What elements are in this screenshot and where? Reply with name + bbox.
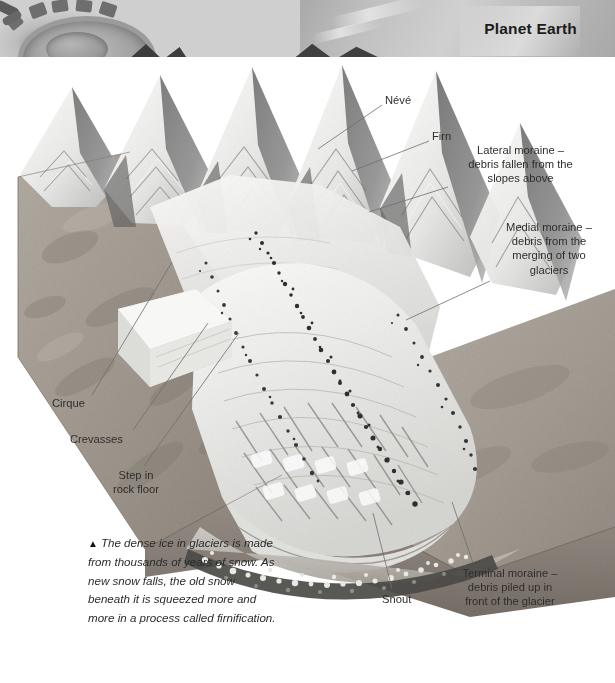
figure-caption: ▲The dense ice in glaciers is made from … (88, 534, 278, 627)
label-firn: Firn (432, 129, 451, 143)
label-step-in-rock-floor: Step in rock floor (95, 468, 177, 496)
header-photo-band: Planet Earth (0, 0, 615, 57)
label-snout: Snout (382, 592, 411, 606)
caption-text: The dense ice in glaciers is made from t… (88, 536, 276, 624)
label-terminal-moraine: Terminal moraine – debris piled up in fr… (443, 566, 577, 609)
label-cirque: Cirque (52, 396, 85, 410)
photo-dark-shape (292, 42, 384, 57)
label-neve: Névé (385, 93, 411, 107)
label-crevasses: Crevasses (70, 432, 123, 446)
gear-tooth-icon (75, 0, 92, 13)
label-medial-moraine: Medial moraine – debris from the merging… (488, 220, 610, 277)
glacier-diagram-svg (0, 57, 615, 617)
page-title: Planet Earth (484, 20, 577, 38)
glacier-illustration: Névé Firn Lateral moraine – debris falle… (0, 57, 615, 617)
caption-triangle-icon: ▲ (88, 538, 98, 549)
label-lateral-moraine: Lateral moraine – debris fallen from the… (453, 143, 588, 186)
gear-tooth-icon (51, 0, 69, 13)
gear-photo (0, 0, 330, 57)
page-root: Planet Earth (0, 0, 615, 683)
